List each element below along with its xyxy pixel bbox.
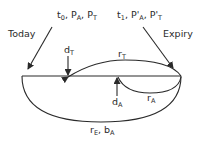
expiry-label: Expiry [163,28,193,39]
lower-arc-rE-bA [22,76,181,122]
dT-label: dT [64,44,74,57]
end-state-label: t1, P'A, P'T [117,9,162,22]
today-label: Today [7,28,36,39]
upper-arc-rT [68,60,181,77]
rT-label: rT [118,48,126,61]
rA-label: rA [147,92,156,105]
rE-bA-label: rE, bA [90,124,115,137]
dA-label: dA [112,96,123,109]
timeline-diagram: Today Expiry t0, PA, PT t1, P'A, P'T dT … [0,0,198,143]
start-state-label: t0, PA, PT [57,9,97,22]
lower-arc-rA [118,77,181,93]
